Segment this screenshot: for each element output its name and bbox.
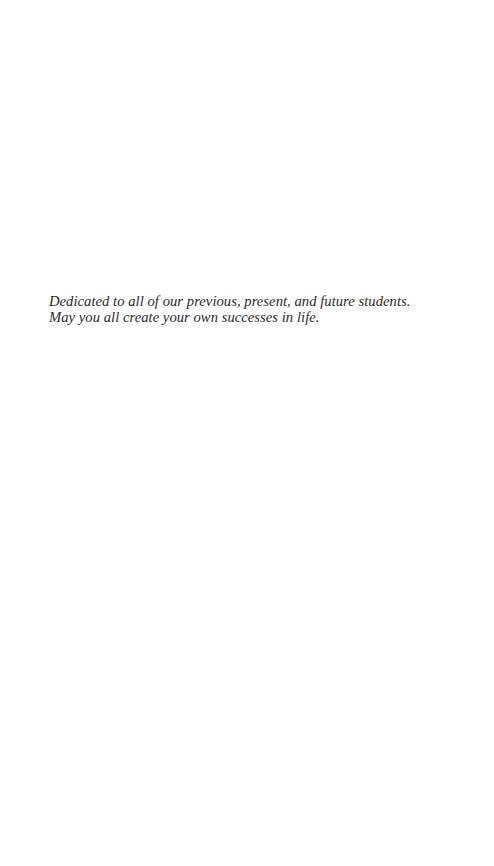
book-page: Dedicated to all of our previous, presen… (0, 0, 494, 866)
dedication-line-2: May you all create your own successes in… (49, 310, 469, 326)
dedication-line-1: Dedicated to all of our previous, presen… (49, 294, 469, 310)
dedication-text: Dedicated to all of our previous, presen… (49, 294, 469, 325)
